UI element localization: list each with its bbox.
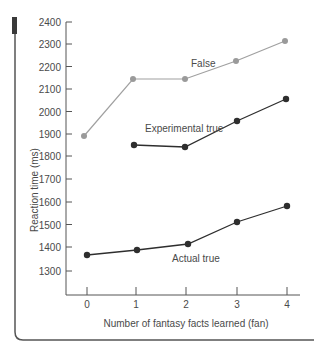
x-axis	[66, 287, 300, 295]
data-point	[234, 118, 240, 124]
y-axis-title: Reaction time (ms)	[29, 148, 40, 232]
y-axis	[66, 22, 72, 295]
data-point	[134, 247, 140, 253]
series-label-actual-true: Actual true	[172, 253, 220, 264]
data-point	[234, 219, 240, 225]
y-tick-label: 1400	[39, 242, 62, 253]
frame-marker	[12, 17, 17, 34]
y-tick-label: 2100	[39, 84, 62, 95]
x-tick-label: 3	[234, 299, 240, 310]
data-point	[283, 96, 289, 102]
y-tick-label: 1500	[39, 220, 62, 231]
x-tick-label: 4	[284, 299, 290, 310]
data-point	[84, 252, 90, 258]
x-axis-title: Number of fantasy facts learned (fan)	[103, 318, 268, 329]
y-tick-label: 1600	[39, 197, 62, 208]
data-point	[131, 142, 137, 148]
frame-border	[15, 34, 314, 340]
figure-frame: 2400 2300 2200 2100 2000 1900 1800 1700 …	[0, 0, 314, 352]
y-tick-label: 2300	[39, 39, 62, 50]
y-tick-label: 1800	[39, 151, 62, 162]
y-tick-label: 1300	[39, 266, 62, 277]
x-tick-label: 2	[183, 299, 189, 310]
data-point	[81, 133, 87, 139]
y-tick-label: 2200	[39, 62, 62, 73]
y-tick-labels: 2400 2300 2200 2100 2000 1900 1800 1700 …	[39, 17, 62, 277]
data-point	[185, 241, 191, 247]
x-tick-labels: 0 1 2 3 4	[84, 299, 290, 310]
y-tick-label: 2000	[39, 107, 62, 118]
data-point	[182, 76, 188, 82]
series-actual-true	[84, 203, 290, 258]
series-label-experimental-true: Experimental true	[145, 123, 224, 134]
y-tick-label: 1700	[39, 174, 62, 185]
data-point	[284, 203, 290, 209]
y-tick-label: 1900	[39, 129, 62, 140]
data-point	[233, 58, 239, 64]
x-tick-label: 0	[84, 299, 90, 310]
data-point	[182, 144, 188, 150]
data-point	[282, 38, 288, 44]
series-label-false: False	[191, 58, 216, 69]
line-chart: 2400 2300 2200 2100 2000 1900 1800 1700 …	[0, 0, 314, 352]
y-tick-label: 2400	[39, 17, 62, 28]
x-tick-label: 1	[133, 299, 139, 310]
data-point	[130, 76, 136, 82]
